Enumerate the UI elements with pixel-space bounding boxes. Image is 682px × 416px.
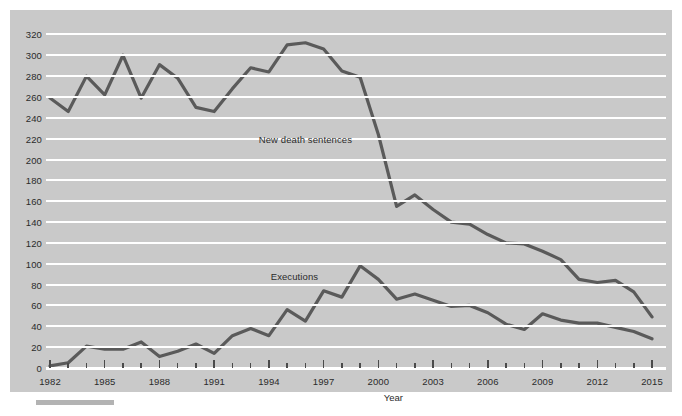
footer-accent-bar <box>36 400 114 405</box>
x-tick-minor <box>560 363 562 368</box>
gridline <box>46 96 666 98</box>
series-annotation: New death sentences <box>259 134 352 145</box>
x-tick-major <box>378 360 380 368</box>
x-tick-label: 1994 <box>258 376 280 387</box>
x-tick-minor <box>86 363 88 368</box>
x-tick-label: 1991 <box>203 376 225 387</box>
gridline <box>46 304 666 306</box>
x-tick-minor <box>396 363 398 368</box>
x-tick-minor <box>177 363 179 368</box>
y-tick-label: 100 <box>26 258 42 269</box>
x-tick-minor <box>140 363 142 368</box>
y-tick-label: 280 <box>26 71 42 82</box>
x-axis-line <box>46 368 666 370</box>
data-series-svg <box>46 16 666 370</box>
y-tick-label: 140 <box>26 217 42 228</box>
y-tick-label: 20 <box>31 342 42 353</box>
x-tick-label: 2015 <box>641 376 663 387</box>
x-tick-minor <box>67 363 69 368</box>
y-tick-label: 260 <box>26 91 42 102</box>
y-tick-label: 240 <box>26 112 42 123</box>
x-tick-major <box>651 360 653 368</box>
x-tick-major <box>542 360 544 368</box>
x-tick-label: 1988 <box>149 376 171 387</box>
gridline <box>46 284 666 286</box>
series-annotation: Executions <box>271 271 318 282</box>
x-tick-label: 1985 <box>94 376 116 387</box>
x-tick-minor <box>122 363 124 368</box>
x-tick-major <box>268 360 270 368</box>
x-tick-label: 2006 <box>477 376 499 387</box>
gridline <box>46 138 666 140</box>
gridline <box>46 179 666 181</box>
x-tick-major <box>159 360 161 368</box>
y-tick-label: 40 <box>31 321 42 332</box>
gridline <box>46 33 666 35</box>
y-tick-label: 300 <box>26 50 42 61</box>
x-tick-minor <box>250 363 252 368</box>
x-tick-major <box>323 360 325 368</box>
gridline <box>46 200 666 202</box>
x-tick-minor <box>578 363 580 368</box>
y-tick-label: 200 <box>26 154 42 165</box>
x-tick-label: 1997 <box>313 376 335 387</box>
gridline <box>46 242 666 244</box>
y-tick-label: 160 <box>26 196 42 207</box>
x-tick-major <box>104 360 106 368</box>
x-tick-minor <box>232 363 234 368</box>
gridline <box>46 75 666 77</box>
x-tick-minor <box>505 363 507 368</box>
x-tick-minor <box>286 363 288 368</box>
y-tick-label: 120 <box>26 237 42 248</box>
y-tick-label: 80 <box>31 279 42 290</box>
x-tick-minor <box>359 363 361 368</box>
plot-background: New death sentencesExecutions 0204060801… <box>10 10 672 392</box>
x-tick-minor <box>305 363 307 368</box>
line-executions <box>50 266 652 366</box>
x-tick-major <box>487 360 489 368</box>
x-tick-minor <box>414 363 416 368</box>
gridline <box>46 54 666 56</box>
y-axis-tick-labels: 0204060801001201401601802002202402602803… <box>10 10 42 364</box>
x-tick-label: 1982 <box>39 376 61 387</box>
x-tick-minor <box>451 363 453 368</box>
y-tick-label: 60 <box>31 300 42 311</box>
y-tick-label: 0 <box>37 363 42 374</box>
x-axis-title: Year <box>384 392 403 403</box>
x-tick-label: 2000 <box>368 376 390 387</box>
x-tick-major <box>597 360 599 368</box>
gridline <box>46 263 666 265</box>
chart-figure: New death sentencesExecutions 0204060801… <box>0 0 682 416</box>
x-tick-minor <box>341 363 343 368</box>
plot-area: New death sentencesExecutions <box>46 16 666 370</box>
y-tick-label: 320 <box>26 29 42 40</box>
y-tick-label: 220 <box>26 133 42 144</box>
x-tick-label: 2012 <box>586 376 608 387</box>
x-tick-minor <box>195 363 197 368</box>
x-tick-minor <box>469 363 471 368</box>
x-tick-minor <box>615 363 617 368</box>
gridline <box>46 325 666 327</box>
gridline <box>46 159 666 161</box>
x-tick-label: 2003 <box>422 376 444 387</box>
gridline <box>46 221 666 223</box>
x-tick-major <box>213 360 215 368</box>
x-tick-major <box>432 360 434 368</box>
gridline <box>46 346 666 348</box>
gridline <box>46 117 666 119</box>
x-tick-minor <box>524 363 526 368</box>
x-tick-minor <box>633 363 635 368</box>
x-tick-label: 2009 <box>532 376 554 387</box>
x-tick-major <box>49 360 51 368</box>
y-tick-label: 180 <box>26 175 42 186</box>
